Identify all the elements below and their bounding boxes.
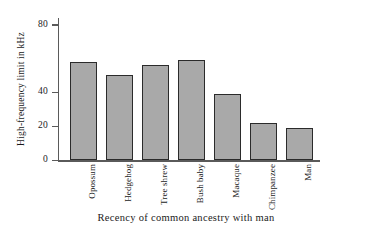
x-axis-title: Recency of common ancestry with man: [0, 212, 372, 223]
category-label-hedgehog: Hedgehog: [124, 164, 133, 202]
y-tick-20: [52, 126, 58, 127]
bar-man: [286, 128, 313, 160]
x-axis-line: [58, 160, 320, 162]
y-tick-0: [52, 160, 58, 161]
category-label-chimpanzee: Chimpanzee: [268, 164, 277, 210]
y-tick-40: [52, 92, 58, 93]
bar-macaque: [214, 94, 241, 160]
y-tick-label-40: 40: [26, 87, 48, 97]
y-tick-label-20: 20: [26, 121, 48, 131]
y-tick-80: [52, 24, 58, 25]
bar-tree-shrew: [142, 65, 169, 160]
y-axis-line: [58, 18, 59, 161]
y-axis-title: High-frequency limit in kHz: [16, 14, 26, 164]
bar-bush-baby: [178, 60, 205, 160]
y-tick-label-0: 0: [26, 155, 48, 165]
bar-chimpanzee: [250, 123, 277, 160]
category-label-macaque: Macaque: [232, 164, 241, 198]
category-label-bush-baby: Bush baby: [196, 164, 205, 203]
category-label-man: Man: [304, 164, 313, 181]
bar-opossum: [70, 62, 97, 160]
bar-hedgehog: [106, 75, 133, 160]
category-label-opossum: Opossum: [88, 164, 97, 199]
y-tick-label-80: 80: [26, 20, 48, 30]
chart-figure: 0204080 OpossumHedgehogTree shrewBush ba…: [0, 0, 372, 232]
category-label-tree-shrew: Tree shrew: [160, 164, 169, 205]
